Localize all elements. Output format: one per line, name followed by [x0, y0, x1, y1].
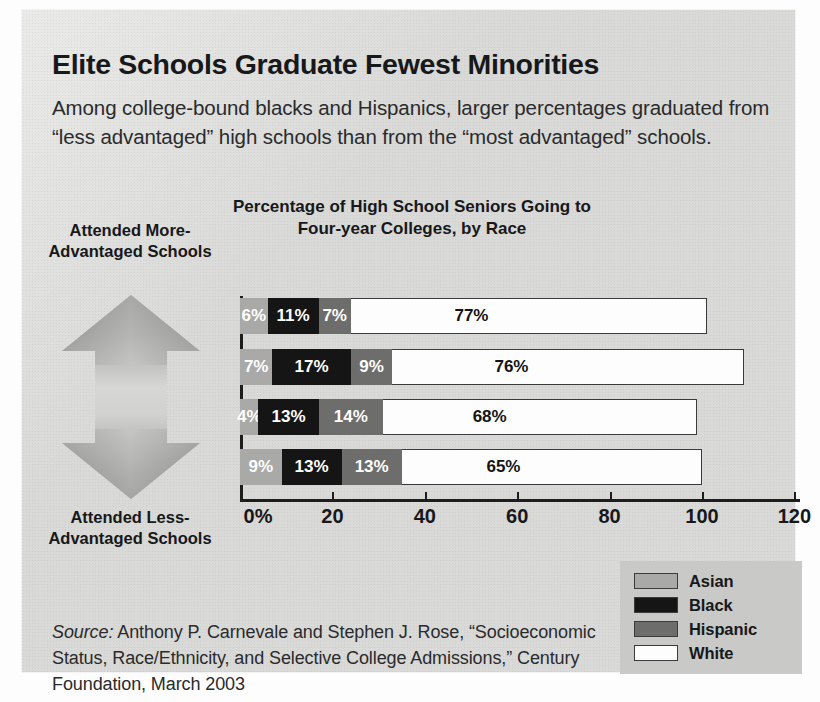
source-label: Source:	[52, 622, 113, 642]
legend-label: Black	[689, 596, 733, 615]
bar-segment-label: 6%	[242, 306, 267, 326]
source-note: Source: Anthony P. Carnevale and Stephen…	[52, 620, 612, 698]
bar-row: 7%17%9%76%	[240, 349, 744, 385]
bar-segment-asian: 6%	[240, 298, 268, 334]
legend-label: Hispanic	[689, 620, 757, 639]
bar-segment-label: 65%	[486, 457, 520, 477]
x-tick-label: 120	[778, 505, 811, 528]
bar-segment-black: 13%	[258, 399, 318, 435]
chart-legend: AsianBlackHispanicWhite	[620, 561, 802, 674]
bar-segment-label: 17%	[295, 357, 329, 377]
page-title: Elite Schools Graduate Fewest Minorities	[52, 49, 752, 80]
bar-segment-label: 77%	[454, 306, 488, 326]
x-tick-label: 0%	[244, 505, 273, 528]
bar-segment-label: 68%	[473, 407, 507, 427]
bar-segment-label: 7%	[322, 306, 347, 326]
bar-segment-hispanic: 13%	[342, 449, 402, 485]
chart-title-line-2: Four-year Colleges, by Race	[197, 218, 627, 240]
x-tick-mark	[517, 492, 519, 500]
bar-segment-white: 76%	[392, 349, 743, 385]
legend-label: Asian	[689, 572, 733, 591]
x-tick-mark	[332, 492, 334, 500]
bar-segment-label: 13%	[271, 407, 305, 427]
bar-segment-label: 9%	[359, 357, 384, 377]
axis-annotation-top: Attended More-Advantaged Schools	[40, 220, 220, 261]
bar-segment-label: 9%	[249, 457, 274, 477]
bar-segment-white: 68%	[383, 399, 697, 435]
stacked-bar-plot-area: 6%11%7%77%7%17%9%76%4%13%14%68%9%13%13%6…	[240, 298, 702, 498]
chart-card: Elite Schools Graduate Fewest Minorities…	[22, 10, 795, 672]
bar-segment-hispanic: 9%	[351, 349, 393, 385]
legend-item-black: Black	[634, 593, 792, 617]
axis-annotation-bottom: Attended Less-Advantaged Schools	[40, 507, 220, 548]
source-text: Anthony P. Carnevale and Stephen J. Rose…	[52, 622, 596, 694]
bar-segment-white: 77%	[351, 298, 707, 334]
legend-label: White	[689, 644, 733, 663]
x-tick-label: 80	[598, 505, 620, 528]
bar-segment-label: 11%	[277, 306, 310, 326]
bar-segment-asian: 9%	[240, 449, 282, 485]
x-tick-label: 100	[685, 505, 718, 528]
bar-segment-label: 76%	[494, 357, 528, 377]
legend-swatch-hispanic	[634, 621, 678, 637]
legend-item-asian: Asian	[634, 569, 792, 593]
deck-text: Among college-bound blacks and Hispanics…	[52, 93, 772, 151]
bar-segment-black: 17%	[272, 349, 351, 385]
bar-segment-label: 7%	[244, 357, 269, 377]
bar-segment-label: 14%	[334, 407, 368, 427]
bar-segment-asian: 4%	[240, 399, 258, 435]
bar-segment-hispanic: 7%	[319, 298, 351, 334]
bar-segment-asian: 7%	[240, 349, 272, 385]
bar-segment-label: 13%	[355, 457, 389, 477]
chart-title-line-1: Percentage of High School Seniors Going …	[197, 196, 627, 218]
x-tick-label: 20	[321, 505, 343, 528]
bar-row: 6%11%7%77%	[240, 298, 707, 334]
x-tick-mark	[425, 492, 427, 500]
legend-swatch-black	[634, 597, 678, 613]
legend-item-hispanic: Hispanic	[634, 617, 792, 641]
x-tick-label: 60	[506, 505, 528, 528]
legend-item-white: White	[634, 641, 792, 665]
double-headed-arrow-icon	[60, 293, 202, 501]
bar-segment-white: 65%	[402, 449, 702, 485]
bar-segment-black: 13%	[282, 449, 342, 485]
x-tick-mark	[610, 492, 612, 500]
x-tick-mark	[794, 492, 796, 500]
bar-row: 9%13%13%65%	[240, 449, 702, 485]
legend-swatch-asian	[634, 573, 678, 589]
x-tick-label: 40	[414, 505, 436, 528]
x-axis-ticks: 0%20406080100120	[240, 499, 800, 539]
bar-row: 4%13%14%68%	[240, 399, 697, 435]
bar-segment-black: 11%	[268, 298, 319, 334]
x-tick-mark	[702, 492, 704, 500]
scanned-page: Elite Schools Graduate Fewest Minorities…	[0, 0, 820, 702]
bar-segment-hispanic: 14%	[319, 399, 384, 435]
bar-segment-label: 13%	[295, 457, 329, 477]
legend-swatch-white	[634, 645, 678, 661]
chart-title: Percentage of High School Seniors Going …	[197, 196, 627, 240]
